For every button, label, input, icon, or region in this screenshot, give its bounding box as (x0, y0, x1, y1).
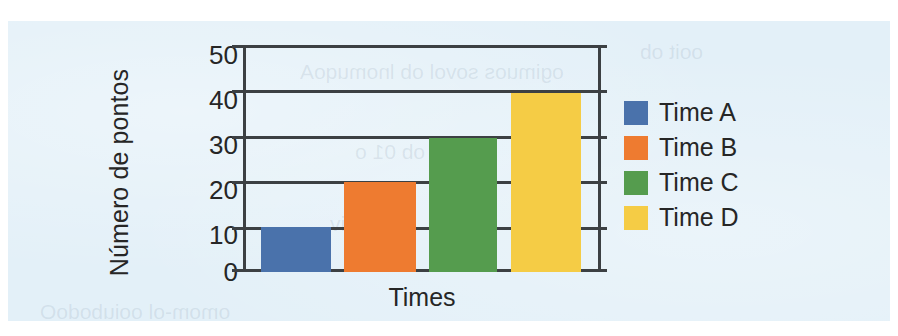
bar-time-c[interactable] (429, 138, 497, 272)
screenshot-root: ogimuos sovol ob lnomuqoA ob 01 o oi nol… (0, 0, 898, 336)
legend-label-time-d: Time D (659, 203, 739, 232)
legend-item-time-c[interactable]: Time C (624, 165, 739, 200)
legend-label-time-b: Time B (659, 133, 737, 162)
legend-swatch-icon-time-a (624, 101, 648, 125)
legend-swatch-icon-time-b (624, 136, 648, 160)
bar-time-b[interactable] (344, 182, 416, 272)
legend-item-time-a[interactable]: Time A (624, 95, 739, 130)
bar-series (243, 45, 601, 272)
bar-time-d[interactable] (511, 93, 581, 272)
y-tick-label-50: 50 (180, 42, 238, 68)
legend-label-time-a: Time A (659, 98, 736, 127)
y-tick-label-30: 30 (180, 132, 238, 158)
legend-swatch-icon-time-c (624, 171, 648, 195)
y-tick-label-40: 40 (180, 87, 238, 113)
bar-chart-figure: Número de pontos 50 40 30 20 10 0 (0, 0, 898, 336)
x-axis-title: Times (243, 283, 601, 312)
bar-time-a[interactable] (261, 227, 331, 272)
chart-legend: Time A Time B Time C Time D (624, 95, 739, 235)
legend-label-time-c: Time C (659, 168, 739, 197)
legend-item-time-d[interactable]: Time D (624, 200, 739, 235)
y-axis-title: Número de pontos (105, 43, 134, 303)
y-tick-label-10: 10 (180, 222, 238, 248)
legend-swatch-icon-time-d (624, 206, 648, 230)
y-tick-label-0: 0 (180, 259, 238, 285)
y-tick-label-20: 20 (180, 177, 238, 203)
legend-item-time-b[interactable]: Time B (624, 130, 739, 165)
